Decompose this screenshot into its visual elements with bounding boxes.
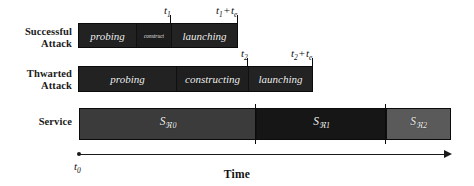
time-axis-line [79, 154, 450, 155]
row-label-service: Service [2, 116, 72, 128]
tick-service-boundary-2 [385, 104, 386, 144]
segment-label: launching [259, 73, 303, 85]
segment-service-1: Sℜ1 [256, 109, 386, 139]
segment-launching: launching [171, 24, 237, 47]
time-operator: + [298, 47, 306, 59]
row-label-thwarted-attack: Thwarted Attack [2, 68, 72, 91]
service-sub: ℜ2 [416, 122, 427, 131]
segment-label: construct [144, 33, 164, 39]
segment-construct: construct [136, 24, 171, 47]
axis-title-time: Time [0, 168, 474, 180]
row-label-successful-attack: Successful Attack [2, 26, 72, 49]
time-label-t1-plus-te: t1+te [216, 4, 237, 21]
time-operator: + [223, 4, 231, 16]
time-label-t2: t2 [241, 47, 248, 64]
attack-service-timeline-diagram: Successful Attack Thwarted Attack Servic… [0, 0, 474, 186]
timeline-bar-successful-attack: probing construct launching [78, 23, 238, 48]
segment-probing: probing [79, 67, 176, 91]
time-sub: 1 [167, 10, 171, 19]
time-label-t2-plus-te: t2+te [291, 47, 312, 64]
time-label-t1: t1 [164, 4, 171, 21]
segment-service-0: Sℜ0 [80, 109, 256, 139]
segment-label: probing [90, 30, 124, 42]
timeline-bar-thwarted-attack: probing constructing launching [78, 66, 313, 92]
time-axis-arrowhead-icon [444, 150, 452, 158]
segment-launching: launching [248, 67, 312, 91]
timeline-bar-service: Sℜ0 Sℜ1 Sℜ2 [79, 108, 451, 140]
segment-probing: probing [79, 24, 136, 47]
tick-service-boundary-1 [255, 104, 256, 144]
time-sub-2: e [234, 10, 237, 19]
segment-label: constructing [185, 73, 240, 85]
segment-service-2: Sℜ2 [386, 109, 450, 139]
service-sub: ℜ0 [165, 122, 176, 131]
segment-label: probing [110, 73, 144, 85]
service-sub: ℜ1 [319, 122, 330, 131]
segment-label: launching [183, 30, 227, 42]
segment-label: Sℜ0 [160, 115, 177, 132]
segment-label: Sℜ1 [313, 115, 330, 132]
time-sub: 2 [244, 53, 248, 62]
time-sub-2: e [309, 53, 312, 62]
segment-label: Sℜ2 [410, 115, 427, 132]
segment-constructing: constructing [176, 67, 248, 91]
